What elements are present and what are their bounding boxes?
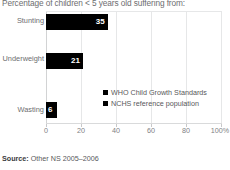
chart-legend: WHO Child Growth Standards NCHS referenc… (103, 87, 207, 109)
legend-swatch-icon (103, 101, 108, 106)
source-label: Source: (2, 154, 29, 163)
legend-swatch-icon (103, 90, 108, 95)
tick-label-40: 40 (112, 127, 120, 134)
bar-value-underweight: 21 (71, 57, 80, 65)
chart-title: Percentage of children < 5 years old suf… (2, 0, 185, 8)
bar-value-stunting: 35 (96, 18, 105, 26)
bar-stunting[interactable]: 35 (46, 14, 108, 30)
bar-value-wasting: 6 (48, 106, 52, 114)
legend-label-nchs: NCHS reference population (111, 100, 199, 107)
tick-label-100: 100% (211, 127, 229, 134)
tick-label-60: 60 (147, 127, 155, 134)
category-label-wasting: Wasting (2, 106, 44, 113)
tick-label-0: 0 (44, 127, 48, 134)
category-axis: Stunting Underweight Wasting (0, 11, 44, 124)
plot-area: 35 21 6 WHO Child Growth Standards NCHS … (46, 11, 222, 124)
legend-label-who: WHO Child Growth Standards (111, 89, 207, 96)
source-value: Other NS 2005–2006 (31, 154, 99, 163)
legend-item-who[interactable]: WHO Child Growth Standards (103, 87, 207, 98)
legend-item-nchs[interactable]: NCHS reference population (103, 98, 207, 109)
category-label-underweight: Underweight (2, 55, 44, 62)
tick-label-20: 20 (77, 127, 85, 134)
bar-wasting[interactable]: 6 (46, 102, 57, 118)
source-note: Source: Other NS 2005–2006 (2, 155, 99, 162)
bar-row-underweight: 21 (46, 53, 222, 69)
bar-underweight[interactable]: 21 (46, 53, 83, 69)
category-label-stunting: Stunting (2, 17, 44, 24)
bar-row-stunting: 35 (46, 14, 222, 30)
x-axis: 0 20 40 60 80 100% (46, 124, 222, 136)
tick-label-80: 80 (182, 127, 190, 134)
